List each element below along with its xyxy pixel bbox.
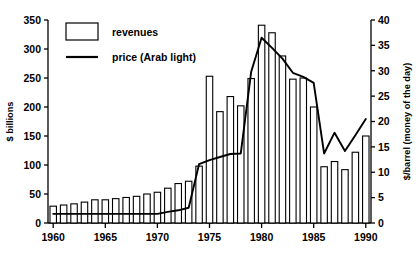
y-tick-label: 0	[35, 217, 41, 229]
bar	[363, 136, 369, 223]
x-tick-label: 1965	[94, 231, 118, 243]
x-tick-label: 1985	[302, 231, 326, 243]
bar-series	[50, 25, 369, 223]
bar	[175, 184, 181, 223]
y-tick-label: 100	[23, 159, 41, 171]
bar	[206, 76, 212, 223]
y2-tick-label: 15	[378, 141, 390, 153]
legend: revenuesprice (Arab light)	[66, 23, 196, 63]
bar	[300, 78, 306, 223]
bar	[92, 200, 98, 223]
y-tick-label: 350	[23, 14, 41, 26]
chart-container: 0501001502002503003500510152025303540196…	[0, 0, 420, 259]
y-axis-title: $ billions	[5, 102, 15, 142]
legend-swatch-revenues	[66, 23, 98, 40]
legend-label-revenues: revenues	[112, 26, 158, 38]
x-tick-label: 1990	[354, 231, 378, 243]
bar	[342, 170, 348, 223]
x-tick-label: 1960	[42, 231, 66, 243]
y2-tick-label: 5	[378, 191, 384, 203]
x-tick-label: 1980	[250, 231, 274, 243]
bar	[248, 79, 254, 223]
y2-tick-label: 30	[378, 65, 390, 77]
bar	[279, 56, 285, 223]
bar	[133, 196, 139, 223]
y2-tick-label: 0	[378, 217, 384, 229]
y-tick-label: 300	[23, 43, 41, 55]
y-tick-label: 200	[23, 101, 41, 113]
x-tick-label: 1975	[198, 231, 222, 243]
bar	[102, 200, 108, 223]
bar	[217, 112, 223, 223]
bar	[154, 192, 160, 223]
legend-label-price: price (Arab light)	[112, 51, 196, 63]
bar	[258, 25, 264, 223]
bar	[165, 188, 171, 223]
bar	[123, 197, 129, 223]
y-tick-label: 250	[23, 72, 41, 84]
x-tick-label: 1970	[146, 231, 170, 243]
bar	[331, 162, 337, 223]
y-tick-label: 50	[29, 188, 41, 200]
y2-tick-label: 10	[378, 166, 390, 178]
bar	[81, 202, 87, 223]
y2-axis-title: $/barrel (money of the day)	[402, 63, 412, 180]
bar	[113, 199, 119, 223]
y2-tick-label: 35	[378, 39, 390, 51]
bar	[144, 194, 150, 223]
y2-tick-label: 25	[378, 90, 390, 102]
y2-tick-label: 20	[378, 115, 390, 127]
y2-tick-label: 40	[378, 14, 390, 26]
bar	[310, 107, 316, 223]
bar	[352, 152, 358, 223]
bar	[238, 106, 244, 223]
y-tick-label: 150	[23, 130, 41, 142]
bar	[321, 167, 327, 223]
bar	[227, 97, 233, 223]
bar	[290, 79, 296, 223]
oil-revenues-price-chart: 0501001502002503003500510152025303540196…	[0, 0, 420, 259]
bar	[269, 33, 275, 223]
